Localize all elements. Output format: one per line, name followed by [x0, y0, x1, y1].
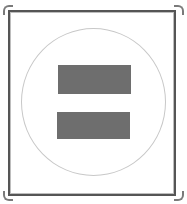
- equals-bar-top: [58, 65, 131, 94]
- equals-bar-bottom: [57, 112, 130, 139]
- circle-outline: [21, 28, 166, 176]
